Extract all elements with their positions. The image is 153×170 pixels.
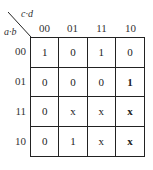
kmap-cell: x xyxy=(59,97,87,127)
kmap-cell: 0 xyxy=(31,68,59,98)
kmap-cell: 0 xyxy=(88,68,116,98)
column-header: 01 xyxy=(58,22,87,34)
row-header: 01 xyxy=(4,75,26,87)
kmap-cell: x xyxy=(88,127,116,157)
kmap-cell: 0 xyxy=(59,38,87,68)
row-variable-label: a·b xyxy=(4,26,17,37)
kmap-cell: 0 xyxy=(31,97,59,127)
column-header: 10 xyxy=(116,22,145,34)
column-header: 00 xyxy=(30,22,59,34)
kmap-cell: x xyxy=(88,97,116,127)
kmap-cell: 0 xyxy=(59,68,87,98)
row-header: 10 xyxy=(4,135,26,147)
column-header: 11 xyxy=(87,22,116,34)
kmap-cell: x xyxy=(116,127,144,157)
kmap-cell: 1 xyxy=(116,68,144,98)
kmap-cell: 0 xyxy=(116,38,144,68)
kmap-cell: 1 xyxy=(88,38,116,68)
kmap-cell: 1 xyxy=(31,38,59,68)
kmap-cell: 1 xyxy=(59,127,87,157)
column-variable-label: c·d xyxy=(21,8,33,19)
karnaugh-map-grid: 1 0 1 0 0 0 0 1 0 x x x 0 1 x x xyxy=(30,37,145,157)
kmap-cell: x xyxy=(116,97,144,127)
row-header: 11 xyxy=(4,105,26,117)
row-header: 00 xyxy=(4,45,26,57)
kmap-cell: 0 xyxy=(31,127,59,157)
